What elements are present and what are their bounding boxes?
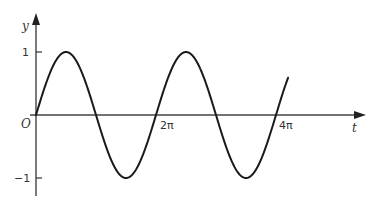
- tick-label-4pi: 4π: [279, 119, 293, 132]
- sine-wave-chart: y t O 1 −1 2π 4π: [0, 0, 376, 206]
- origin-label: O: [21, 117, 31, 131]
- tick-label-y-neg1: −1: [14, 172, 30, 185]
- t-axis-label: t: [352, 121, 357, 135]
- y-axis-arrow-icon: [32, 13, 40, 25]
- y-axis-label: y: [21, 19, 29, 33]
- tick-label-2pi: 2π: [160, 119, 174, 132]
- t-axis-arrow-icon: [354, 111, 366, 119]
- tick-label-y-1: 1: [22, 46, 29, 59]
